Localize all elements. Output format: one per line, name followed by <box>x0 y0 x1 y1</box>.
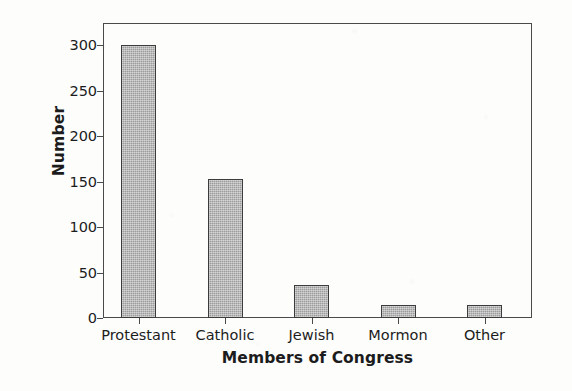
bar-chart-figure: Number 0 50 100 150 200 250 300 Protesta… <box>0 0 572 391</box>
y-tick-label-200: 200 <box>57 128 97 144</box>
bar-protestant <box>121 45 156 318</box>
y-tick-mark-0 <box>97 318 103 319</box>
x-tick-mark-mormon <box>398 318 399 324</box>
bar-jewish <box>294 285 329 318</box>
x-tick-mark-catholic <box>225 318 226 324</box>
y-tick-label-50: 50 <box>57 265 97 281</box>
bar-other <box>467 305 502 319</box>
y-tick-label-150: 150 <box>57 174 97 190</box>
bar-catholic <box>208 179 243 319</box>
bar-mormon <box>381 305 416 319</box>
x-tick-mark-other <box>485 318 486 324</box>
plot-frame <box>103 23 532 318</box>
y-tick-label-0: 0 <box>57 310 97 326</box>
x-tick-mark-jewish <box>312 318 313 324</box>
x-tick-mark-protestant <box>139 318 140 324</box>
x-tick-label-other: Other <box>430 327 540 343</box>
x-axis-title: Members of Congress <box>103 349 532 367</box>
y-tick-label-250: 250 <box>57 83 97 99</box>
y-tick-label-300: 300 <box>57 37 97 53</box>
y-tick-label-100: 100 <box>57 219 97 235</box>
